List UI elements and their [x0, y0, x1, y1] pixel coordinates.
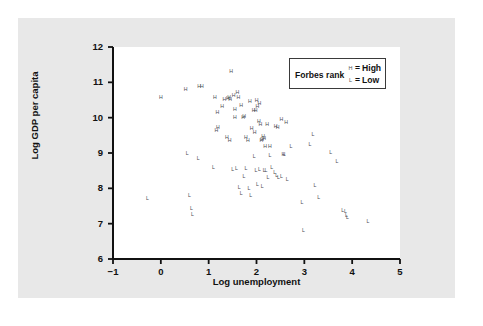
data-point-high: H: [258, 122, 262, 127]
y-tick-label: 6: [85, 254, 103, 264]
data-point-low: L: [245, 166, 248, 171]
y-tick-label: 10: [85, 113, 103, 123]
y-tick-label: 7: [85, 219, 103, 229]
data-point-low: L: [317, 196, 320, 201]
data-point-high: H: [246, 138, 250, 143]
data-point-high: H: [239, 103, 243, 108]
data-point-low: L: [247, 186, 250, 191]
data-point-low: L: [366, 219, 369, 224]
data-point-low: L: [267, 175, 270, 180]
data-point-low: L: [243, 174, 246, 179]
data-point-low: L: [309, 142, 312, 147]
scatter-plot-figure: 6789101112−1012345 Log GDP per capita Lo…: [0, 0, 483, 326]
legend-title: Forbes rank: [295, 70, 344, 80]
legend-entry-low: L=Low: [347, 75, 379, 85]
data-point-high: H: [229, 69, 233, 74]
data-point-low: L: [146, 197, 149, 202]
legend-label-low: Low: [362, 75, 379, 85]
data-point-low: L: [289, 144, 292, 149]
y-tick-label: 9: [85, 148, 103, 158]
data-point-low: L: [286, 177, 289, 182]
x-axis-label: Log unemployment: [113, 276, 400, 287]
data-point-high: H: [262, 136, 266, 141]
data-point-low: L: [240, 192, 243, 197]
y-tick-label: 12: [85, 42, 103, 52]
data-point-low: L: [197, 157, 200, 162]
data-point-low: L: [346, 215, 349, 220]
legend-marker-high: H: [347, 65, 354, 71]
data-point-low: L: [261, 185, 264, 190]
legend-marker-low: L: [347, 77, 354, 83]
data-point-high: H: [242, 114, 246, 119]
legend-equals-high: =: [354, 63, 362, 73]
data-point-high: H: [184, 87, 188, 92]
data-point-low: L: [212, 165, 215, 170]
y-tick-label: 11: [85, 77, 103, 87]
y-axis-label: Log GDP per capita: [29, 46, 40, 186]
data-point-high: H: [265, 122, 269, 127]
data-point-low: L: [256, 182, 259, 187]
data-point-low: L: [280, 174, 283, 179]
data-point-high: H: [213, 95, 217, 100]
legend-equals-low: =: [354, 75, 362, 85]
data-point-low: L: [253, 155, 256, 160]
data-point-low: L: [258, 167, 261, 172]
data-point-low: L: [238, 185, 241, 190]
data-point-high: H: [279, 118, 283, 123]
data-point-high: H: [257, 101, 261, 106]
data-point-low: L: [186, 151, 189, 156]
data-point-high: H: [159, 95, 163, 100]
data-point-low: L: [335, 159, 338, 164]
data-point-high: H: [268, 144, 272, 149]
data-point-high: H: [232, 94, 236, 99]
data-point-high: H: [233, 116, 237, 121]
data-point-low: L: [311, 132, 314, 137]
data-point-low: L: [231, 167, 234, 172]
data-point-high: H: [220, 104, 224, 109]
data-point-high: H: [216, 126, 220, 131]
data-point-high: H: [284, 120, 288, 125]
data-point-high: H: [263, 144, 267, 149]
data-point-high: H: [200, 84, 204, 89]
data-point-low: L: [300, 201, 303, 206]
data-point-low: L: [188, 194, 191, 199]
legend-label-high: High: [362, 63, 381, 73]
data-point-high: H: [276, 125, 280, 130]
data-point-low: L: [249, 194, 252, 199]
data-point-low: L: [268, 153, 271, 158]
legend-entry-high: H=High: [347, 63, 381, 73]
data-point-high: H: [215, 110, 219, 115]
data-point-high: H: [236, 95, 240, 100]
data-point-low: L: [329, 150, 332, 155]
y-tick-label: 8: [85, 183, 103, 193]
data-point-high: H: [248, 99, 252, 104]
data-point-high: H: [225, 136, 229, 141]
data-point-low: L: [283, 152, 286, 157]
data-point-low: L: [235, 166, 238, 171]
data-point-low: L: [313, 183, 316, 188]
data-point-low: L: [191, 213, 194, 218]
legend: Forbes rank H=High L=Low: [289, 58, 386, 89]
data-point-high: H: [253, 131, 257, 136]
data-point-low: L: [302, 229, 305, 234]
data-point-high: H: [233, 107, 237, 112]
